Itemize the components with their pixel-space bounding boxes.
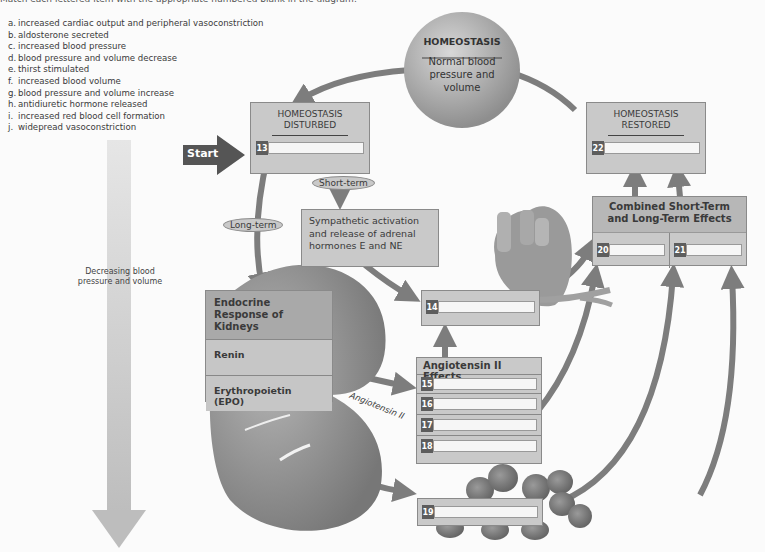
decreasing-label: Decreasing blood pressure and volume	[75, 267, 165, 287]
heart-effect-box: 14	[421, 290, 540, 326]
long-term-label: Long-term	[223, 218, 283, 232]
legend-item: j.widepread vasoconstriction	[8, 122, 264, 134]
angiotensin-effects-box: Angiotensin II Effects 15 16 17 18	[416, 357, 542, 464]
rbc-effect-box: 19	[417, 498, 543, 526]
legend-item: c.increased blood pressure	[8, 41, 264, 53]
start-arrow: Start	[183, 135, 245, 175]
legend-item: e.thirst stimulated	[8, 64, 264, 76]
answer-blank-15[interactable]	[433, 378, 537, 390]
answer-blank-17[interactable]	[433, 419, 537, 431]
answer-blank-21[interactable]	[686, 244, 742, 256]
legend-item: b.aldosterone secreted	[8, 30, 264, 42]
answer-blank-18[interactable]	[433, 440, 537, 452]
answer-blank-20[interactable]	[609, 244, 665, 256]
combined-effects-box: Combined Short-Term and Long-Term Effect…	[592, 196, 747, 266]
homeostasis-restored-box: HOMEOSTASIS RESTORED 22	[586, 102, 706, 174]
answer-blank-14[interactable]	[438, 301, 535, 313]
decreasing-arrow-head	[92, 510, 146, 548]
endocrine-response-box: Endocrine Response of Kidneys Renin Eryt…	[205, 290, 333, 402]
legend-item: h.antidiuretic hormone released	[8, 99, 264, 111]
short-term-label: Short-term	[312, 176, 375, 190]
answer-blank-16[interactable]	[433, 398, 537, 410]
legend-item: f.increased blood volume	[8, 76, 264, 88]
instruction-text: Match each lettered item with the approp…	[0, 0, 357, 4]
homeostasis-disturbed-box: HOMEOSTASIS DISTURBED 13	[250, 102, 370, 174]
legend-item: a.increased cardiac output and periphera…	[8, 18, 264, 30]
endocrine-row-renin: Renin	[206, 339, 332, 375]
homeostasis-node: HOMEOSTASIS Normal blood pressure and vo…	[420, 36, 504, 94]
legend-item: g.blood pressure and volume increase	[8, 88, 264, 100]
answer-legend: a.increased cardiac output and periphera…	[8, 18, 264, 134]
endocrine-row-epo: Erythropoietin (EPO)	[206, 375, 332, 411]
legend-item: d.blood pressure and volume decrease	[8, 53, 264, 65]
decreasing-arrow-shaft	[107, 140, 131, 515]
answer-blank-22[interactable]	[604, 142, 700, 154]
answer-blank-19[interactable]	[434, 506, 538, 518]
legend-item: i.increased red blood cell formation	[8, 111, 264, 123]
sympathetic-activation-box: Sympathetic activation and release of ad…	[301, 209, 439, 267]
answer-blank-13[interactable]	[268, 142, 364, 154]
